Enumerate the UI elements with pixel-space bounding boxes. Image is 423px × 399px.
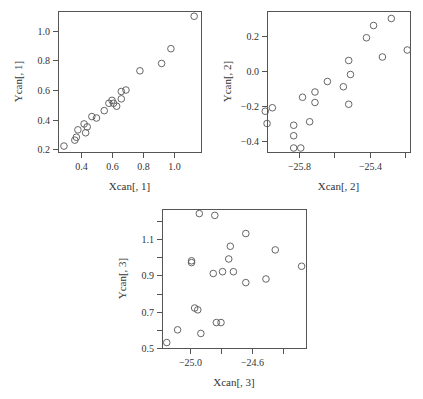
y-tick-label: 0.2 [38, 144, 51, 155]
data-point [89, 113, 96, 120]
data-point [230, 268, 237, 275]
data-point [379, 54, 386, 61]
x-axis-label: Xcan[, 2] [318, 180, 360, 192]
data-point [75, 127, 82, 134]
data-point [263, 276, 270, 283]
y-tick-label: 1.1 [142, 234, 155, 245]
data-point [191, 13, 198, 20]
data-point [370, 22, 377, 29]
data-point [345, 57, 352, 64]
data-point [312, 89, 319, 96]
data-point [272, 247, 279, 254]
y-tick-label: 0.7 [142, 307, 155, 318]
data-points [61, 13, 198, 149]
data-point [158, 60, 165, 67]
x-tick-label: 1.0 [168, 161, 181, 172]
scatter-plot-2: −25.8−25.4Xcan[, 2]−0.4−0.20.00.2Ycan[, … [221, 12, 411, 193]
x-axis-label: Xcan[, 3] [213, 376, 255, 388]
data-points [262, 15, 411, 151]
data-point [137, 68, 144, 75]
data-point [243, 230, 250, 237]
x-axis: 0.40.60.81.0Xcan[, 1] [75, 153, 181, 192]
plot-frame [268, 12, 411, 153]
x-tick-label: 0.6 [106, 161, 119, 172]
data-point [404, 47, 411, 54]
data-points [163, 210, 304, 346]
y-tick-label: 0.2 [247, 31, 260, 42]
data-point [243, 279, 250, 286]
data-point [123, 87, 130, 94]
data-point [298, 263, 305, 270]
data-point [299, 94, 306, 101]
y-axis: 0.50.70.91.1Ycan[, 3] [116, 222, 162, 355]
y-axis-label: Ycan[, 3] [116, 258, 128, 300]
data-point [93, 115, 100, 122]
data-point [290, 145, 297, 152]
y-tick-label: 0.6 [38, 85, 51, 96]
data-point [168, 45, 175, 52]
data-point [227, 243, 234, 250]
x-tick-label: −25.8 [288, 161, 311, 172]
data-point [118, 96, 125, 103]
data-point [269, 104, 276, 111]
data-point [297, 145, 304, 152]
data-point [174, 327, 181, 334]
plot-frame [59, 12, 202, 153]
x-axis: −25.0−24.6Xcan[, 3] [179, 349, 284, 388]
data-point [312, 99, 319, 106]
y-tick-label: 0.5 [142, 343, 155, 354]
data-point [198, 330, 205, 337]
data-point [340, 83, 347, 90]
y-tick-label: 0.9 [142, 270, 155, 281]
x-tick-label: 0.8 [137, 161, 150, 172]
y-tick-label: −0.4 [241, 136, 259, 147]
data-point [210, 270, 217, 277]
data-point [290, 122, 297, 129]
scatter-plot-1: 0.40.60.81.0Xcan[, 1]0.20.40.60.81.0Ycan… [12, 12, 202, 193]
data-point [388, 15, 395, 22]
scatter-plot-canvas: 0.40.60.81.0Xcan[, 1]0.20.40.60.81.0Ycan… [0, 0, 423, 399]
data-point [290, 132, 297, 139]
data-point [219, 268, 226, 275]
y-axis-label: Ycan[, 1] [12, 61, 24, 103]
data-point [212, 212, 219, 219]
scatter-plot-3: −25.0−24.6Xcan[, 3]0.50.70.91.1Ycan[, 3] [116, 210, 307, 389]
x-tick-label: −25.0 [179, 357, 202, 368]
data-point [363, 34, 370, 41]
data-point [345, 101, 352, 108]
x-axis: −25.8−25.4Xcan[, 2] [288, 153, 406, 192]
y-tick-label: 0.8 [38, 55, 51, 66]
data-point [61, 143, 68, 150]
data-point [306, 118, 313, 125]
y-axis: 0.20.40.60.81.0Ycan[, 1] [12, 26, 58, 155]
data-point [101, 107, 108, 114]
y-tick-label: 0.0 [247, 66, 260, 77]
y-axis-label: Ycan[, 2] [221, 61, 233, 103]
y-tick-label: 1.0 [38, 26, 51, 37]
x-tick-label: −25.4 [359, 161, 382, 172]
data-point [347, 71, 354, 78]
data-point [218, 319, 225, 326]
y-tick-label: 0.4 [38, 115, 51, 126]
data-point [225, 256, 232, 263]
data-point [118, 88, 125, 95]
x-tick-label: −24.6 [241, 357, 264, 368]
plot-frame [163, 210, 307, 349]
y-tick-label: −0.2 [241, 101, 259, 112]
y-axis: −0.4−0.20.00.2Ycan[, 2] [221, 31, 267, 147]
data-point [163, 339, 170, 346]
data-point [196, 210, 203, 217]
data-point [324, 78, 331, 85]
x-tick-label: 0.4 [75, 161, 88, 172]
x-axis-label: Xcan[, 1] [109, 180, 151, 192]
